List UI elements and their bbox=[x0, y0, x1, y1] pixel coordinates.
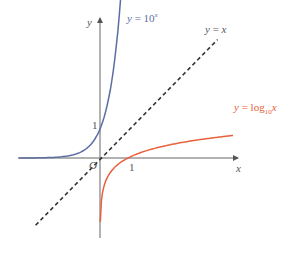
exp-curve bbox=[19, 0, 141, 158]
log-curve bbox=[100, 136, 233, 222]
function-graph bbox=[0, 0, 295, 256]
x-tick-1: 1 bbox=[129, 162, 135, 173]
x-axis-label: x bbox=[236, 163, 241, 174]
origin-label: O bbox=[89, 160, 97, 171]
exp-label: y = 10x bbox=[127, 12, 158, 24]
identity-line bbox=[36, 40, 218, 226]
log-label: y = log10x bbox=[234, 102, 277, 116]
y-axis-label: y bbox=[87, 17, 92, 28]
identity-label: y = x bbox=[205, 24, 227, 35]
y-tick-1: 1 bbox=[92, 120, 98, 131]
